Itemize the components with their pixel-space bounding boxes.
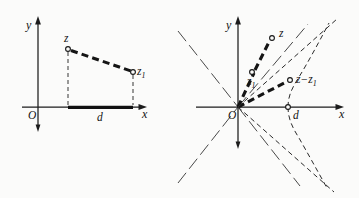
right-point-z-minus-z1-label-base: z−z: [296, 73, 313, 85]
left-point-z1-label-subscript: 1: [141, 71, 145, 80]
right-guide-line-upper-left: [178, 31, 238, 107]
left-segment-d-label: d: [97, 112, 103, 124]
right-point-d-marker: [286, 105, 291, 110]
figure-drawing: [0, 0, 359, 198]
right-point-z-minus-z1-label: z−z1: [296, 74, 317, 88]
left-point-z-marker: [66, 47, 71, 52]
left-origin-label: O: [28, 110, 36, 122]
left-connector-z-to-z1: [71, 51, 131, 72]
right-vector-z: [255, 40, 270, 70]
right-guide-line-lower-right: [238, 107, 300, 186]
right-panel-group: [178, 16, 344, 192]
right-point-z1-label-subscript: 1: [251, 81, 255, 90]
right-hyperbola-upper-branch: [288, 23, 329, 107]
figure-container: y x O z z1 d y x O z z1 z−z1 d: [0, 0, 359, 198]
left-point-z1-marker: [131, 70, 136, 75]
left-x-axis-label: x: [142, 108, 147, 120]
left-y-axis-arrowhead: [35, 16, 41, 25]
right-asymptote-upper: [238, 19, 337, 107]
left-y-axis-label: y: [26, 19, 31, 31]
right-origin-label: O: [228, 110, 236, 122]
right-point-z-minus-z1-marker: [288, 78, 293, 83]
right-point-z-marker: [270, 36, 275, 41]
right-x-axis-label: x: [339, 108, 344, 120]
right-y-axis-arrowhead: [235, 16, 241, 25]
right-vertex-d-label: d: [293, 110, 299, 122]
left-point-z1-label: z1: [137, 66, 145, 80]
right-point-z1-marker: [250, 70, 255, 75]
left-y-axis-lower-tip: [36, 125, 41, 133]
right-point-z-minus-z1-label-subscript: 1: [313, 79, 317, 88]
right-y-axis-label: y: [226, 19, 231, 31]
right-point-z-label: z: [279, 28, 283, 40]
left-point-z-label: z: [64, 33, 68, 45]
right-y-axis-lower-tip: [236, 142, 241, 150]
right-asymptote-lower: [238, 107, 334, 192]
left-panel-group: [22, 16, 147, 132]
right-point-z1-label: z1: [247, 76, 255, 90]
